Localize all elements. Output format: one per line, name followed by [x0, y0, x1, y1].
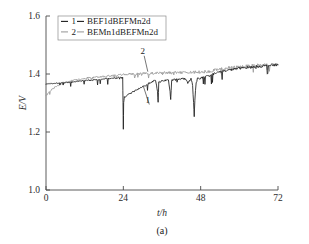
y-axis-title: E/V — [18, 95, 28, 111]
legend-marker-number: 1 — [72, 16, 77, 26]
y-tick-label: 1.2 — [28, 127, 40, 137]
figure-caption: (a) — [156, 225, 167, 237]
legend-entry-label: BEF1dBEFMn2d — [87, 16, 151, 26]
x-axis-title: t/h — [157, 208, 167, 218]
y-tick-label: 1.0 — [28, 185, 40, 195]
y-tick-label: 1.4 — [28, 69, 40, 79]
x-tick-label: 72 — [273, 193, 283, 203]
legend-marker-number: 2 — [72, 27, 77, 37]
x-tick-label: 24 — [119, 193, 129, 203]
x-tick-label: 48 — [196, 193, 206, 203]
legend-entry-label: BEMn1dBEFMn2d — [87, 27, 159, 37]
y-tick-label: 1.6 — [28, 11, 40, 21]
data-series-group — [46, 63, 278, 129]
chart-canvas: 1.01.21.41.6 0244872 21 1BEF1dBEFMn2d2BE… — [0, 0, 309, 244]
chart-legend: 1BEF1dBEFMn2d2BEMn1dBEFMn2d — [58, 16, 166, 40]
figure-container: 1.01.21.41.6 0244872 21 1BEF1dBEFMn2d2BE… — [0, 0, 309, 244]
y-axis-ticks: 1.01.21.41.6 — [28, 11, 50, 195]
x-axis-ticks: 0244872 — [44, 186, 283, 203]
annotation-leader-line — [144, 56, 148, 72]
x-tick-label: 0 — [44, 193, 49, 203]
series-annotation-label: 2 — [140, 46, 145, 56]
plot-axes — [46, 16, 278, 190]
